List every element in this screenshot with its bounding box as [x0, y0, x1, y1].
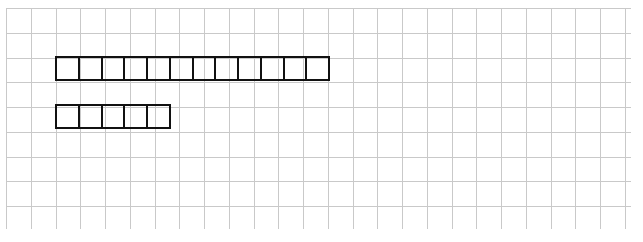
- bars-container: [0, 0, 643, 242]
- tape-unit-cell: [55, 104, 80, 129]
- tape-unit-cell: [169, 56, 194, 81]
- tape-unit-cell: [78, 56, 103, 81]
- tape-unit-cell: [305, 56, 330, 81]
- tape-unit-cell: [55, 56, 80, 81]
- tape-unit-cell: [283, 56, 308, 81]
- top-bar: [55, 56, 330, 81]
- tape-unit-cell: [146, 104, 171, 129]
- tape-unit-cell: [146, 56, 171, 81]
- tape-diagram-figure: [0, 0, 643, 242]
- tape-unit-cell: [260, 56, 285, 81]
- tape-unit-cell: [214, 56, 239, 81]
- tape-unit-cell: [192, 56, 217, 81]
- tape-unit-cell: [237, 56, 262, 81]
- tape-unit-cell: [101, 104, 126, 129]
- tape-unit-cell: [78, 104, 103, 129]
- bottom-bar: [55, 104, 171, 129]
- tape-unit-cell: [123, 56, 148, 81]
- tape-unit-cell: [101, 56, 126, 81]
- tape-unit-cell: [123, 104, 148, 129]
